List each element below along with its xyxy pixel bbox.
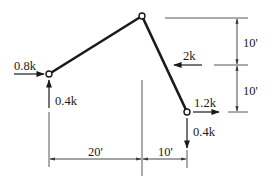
left-member xyxy=(49,16,142,74)
right-vertical-load-label: 0.4k xyxy=(193,125,216,139)
dimension-20ft-label: 20' xyxy=(88,145,103,159)
right-member xyxy=(142,16,187,112)
left-hinge-icon xyxy=(46,71,52,77)
dimension-10ft-top-label: 10' xyxy=(243,36,258,50)
right-horizontal-load-label: 1.2k xyxy=(194,96,217,110)
apex-hinge-icon xyxy=(139,13,145,19)
loads: 0.8k 0.4k 2k 1.2k 0.4k xyxy=(14,49,219,148)
left-vertical-load-label: 0.4k xyxy=(55,94,78,108)
dimension-10ft-horizontal-label: 10' xyxy=(158,145,173,159)
right-hinge-icon xyxy=(184,109,190,115)
dimension-10ft-bottom-label: 10' xyxy=(243,84,258,98)
structural-diagram: 0.8k 0.4k 2k 1.2k 0.4k 20' 10' 10' 10' xyxy=(0,0,274,182)
middle-horizontal-load-label: 2k xyxy=(183,49,196,63)
left-horizontal-load-label: 0.8k xyxy=(14,59,37,73)
